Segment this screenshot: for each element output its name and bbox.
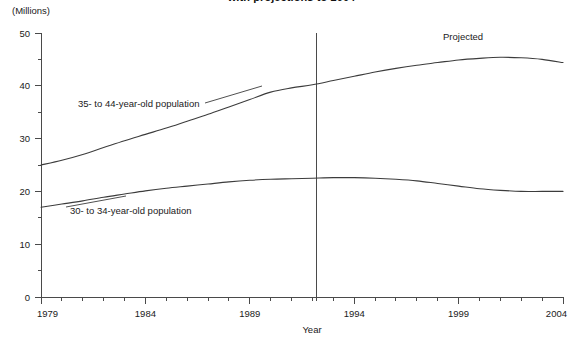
x-tick-label: 1989 bbox=[239, 308, 260, 319]
y-tick-label: 30 bbox=[19, 133, 30, 144]
series-lines bbox=[41, 57, 563, 207]
series-line-1 bbox=[41, 178, 563, 208]
x-tick-label: 1994 bbox=[344, 308, 365, 319]
y-tick-label: 10 bbox=[19, 239, 30, 250]
x-tick-label: 2004 bbox=[546, 308, 567, 319]
series-label-35-to-44: 35- to 44-year-old population bbox=[78, 98, 199, 109]
x-tick-label: 1979 bbox=[37, 308, 58, 319]
x-tick-label: 1999 bbox=[448, 308, 469, 319]
leader-line-upper bbox=[205, 86, 262, 103]
axis-lines bbox=[41, 33, 563, 297]
x-axis-ticks bbox=[41, 297, 563, 304]
y-tick-label: 50 bbox=[19, 28, 30, 39]
x-axis-title: Year bbox=[302, 324, 321, 335]
projected-annotation: Projected bbox=[443, 31, 483, 42]
y-axis-ticks bbox=[35, 33, 41, 297]
x-axis-tick-labels: 197919841989199419992004 bbox=[37, 308, 567, 319]
x-tick-label: 1984 bbox=[135, 308, 156, 319]
chart-figure: with projections to 2004 (Millions) 0102… bbox=[0, 0, 583, 343]
y-axis-tick-labels: 01020304050 bbox=[19, 28, 30, 303]
series-line-0 bbox=[41, 57, 563, 165]
y-tick-label: 0 bbox=[25, 292, 30, 303]
series-label-30-to-34: 30- to 34-year-old population bbox=[70, 205, 191, 216]
y-tick-label: 20 bbox=[19, 186, 30, 197]
y-tick-label: 40 bbox=[19, 80, 30, 91]
chart-plot-area: 01020304050 197919841989199419992004 35-… bbox=[0, 0, 583, 343]
